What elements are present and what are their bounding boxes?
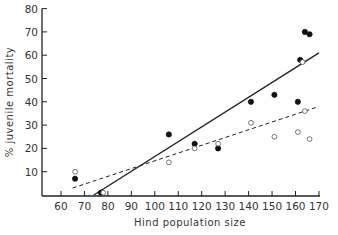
open-point	[300, 60, 305, 65]
scatter-chart: 1020304050607080607080901001101201301401…	[0, 0, 338, 235]
x-tick-label: 130	[215, 200, 235, 212]
filled-point	[248, 99, 253, 104]
filled-point	[216, 146, 221, 151]
x-tick-label: 60	[54, 200, 67, 212]
y-tick-label: 60	[25, 49, 38, 61]
y-tick-label: 20	[25, 142, 38, 154]
x-tick-label: 70	[78, 200, 91, 212]
filled-regression-line	[94, 53, 319, 195]
filled-point	[307, 32, 312, 37]
x-tick-label: 110	[168, 200, 188, 212]
open-point	[249, 120, 254, 125]
y-tick-label: 70	[25, 26, 38, 38]
open-point	[295, 130, 300, 135]
axes: 1020304050607080607080901001101201301401…	[25, 3, 329, 212]
x-tick-label: 120	[192, 200, 212, 212]
y-tick-label: 30	[25, 119, 38, 131]
filled-point	[272, 92, 277, 97]
x-axis-title: Hind population size	[134, 217, 246, 228]
y-tick-label: 50	[25, 73, 38, 85]
y-tick-label: 80	[25, 3, 38, 15]
open-point	[272, 134, 277, 139]
open-point	[302, 109, 307, 114]
open-point	[73, 169, 78, 174]
y-tick-label: 10	[25, 166, 38, 178]
filled-point	[166, 132, 171, 137]
x-tick-label: 80	[101, 200, 114, 212]
x-tick-label: 140	[239, 200, 259, 212]
x-tick-label: 90	[125, 200, 138, 212]
x-tick-label: 150	[262, 200, 282, 212]
regression-lines	[73, 53, 319, 195]
y-tick-label: 40	[25, 96, 38, 108]
y-axis-title: % juvenile mortality	[4, 47, 15, 158]
open-point	[216, 141, 221, 146]
open-point	[307, 137, 312, 142]
open-point	[166, 160, 171, 165]
filled-point	[192, 141, 197, 146]
data-points	[72, 29, 312, 195]
open-point	[101, 190, 106, 195]
x-tick-label: 160	[285, 200, 305, 212]
x-tick-label: 100	[145, 200, 165, 212]
open-point	[192, 146, 197, 151]
filled-point	[72, 176, 77, 181]
x-tick-label: 170	[309, 200, 329, 212]
filled-point	[295, 99, 300, 104]
